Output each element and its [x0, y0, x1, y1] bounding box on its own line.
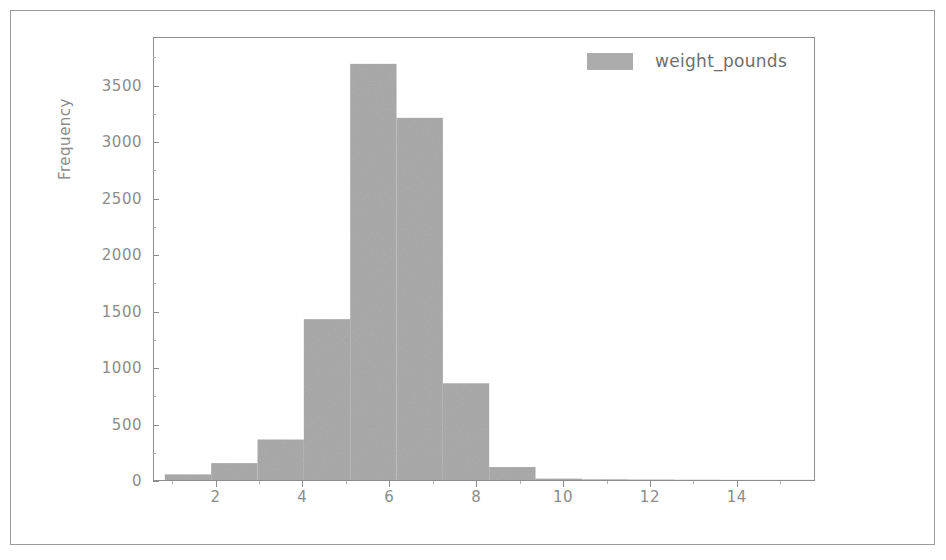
x-axis-tick-mark: [476, 481, 477, 487]
x-axis-tick-label: 10: [553, 488, 573, 506]
y-axis-tick-mark: [153, 312, 159, 313]
x-axis-minor-tick: [172, 481, 173, 484]
x-axis-tick-label: 4: [297, 488, 307, 506]
histogram-bar: [165, 474, 211, 480]
histogram-bar: [489, 467, 535, 480]
histogram-bar: [304, 319, 350, 480]
y-axis-tick-label: 3000: [102, 133, 142, 151]
x-axis-tick-mark: [737, 481, 738, 487]
histogram-bar: [397, 118, 443, 480]
x-axis-minor-tick: [520, 481, 521, 484]
y-axis-tick-mark: [153, 255, 159, 256]
y-axis-minor-tick: [153, 57, 156, 58]
y-axis-tick-label: 1000: [102, 359, 142, 377]
histogram-bar: [582, 479, 628, 480]
x-axis-tick-mark: [216, 481, 217, 487]
y-axis-title: Frequency: [56, 98, 74, 180]
x-axis-minor-tick: [433, 481, 434, 484]
y-axis-minor-tick: [153, 114, 156, 115]
histogram-bar: [211, 463, 257, 480]
x-axis-minor-tick: [780, 481, 781, 484]
y-axis-tick-mark: [153, 481, 159, 482]
y-axis-tick-label: 3500: [102, 77, 142, 95]
y-axis-tick-label: 2000: [102, 246, 142, 264]
plot-area: [153, 37, 815, 481]
x-axis-minor-tick: [346, 481, 347, 484]
y-axis-tick-mark: [153, 368, 159, 369]
legend-swatch-weight-pounds: [587, 53, 633, 70]
y-axis-minor-tick: [153, 283, 156, 284]
x-axis-tick-label: 8: [471, 488, 481, 506]
x-axis-tick-mark: [389, 481, 390, 487]
x-axis-minor-tick: [693, 481, 694, 484]
y-axis-tick-mark: [153, 86, 159, 87]
histogram-bar: [350, 64, 396, 480]
chart-legend: weight_pounds: [579, 47, 795, 75]
y-axis-tick-label: 2500: [102, 190, 142, 208]
x-axis-tick-mark: [650, 481, 651, 487]
x-axis-tick-mark: [563, 481, 564, 487]
x-axis-tick-label: 14: [727, 488, 747, 506]
y-axis-tick-label: 1500: [102, 303, 142, 321]
x-axis-tick-label: 2: [211, 488, 221, 506]
y-axis-tick-label: 0: [132, 472, 142, 490]
histogram-bar: [536, 479, 582, 480]
figure-canvas: Frequency 0500100015002000250030003500 2…: [0, 0, 946, 560]
x-axis-tick-label: 6: [384, 488, 394, 506]
x-axis-tick-label: 12: [640, 488, 660, 506]
y-axis-tick-labels: 0500100015002000250030003500: [78, 37, 142, 481]
histogram-bar: [258, 440, 304, 480]
histogram-bars: [154, 38, 814, 480]
y-axis-tick-label: 500: [112, 416, 142, 434]
x-axis-minor-tick: [259, 481, 260, 484]
y-axis-minor-tick: [153, 396, 156, 397]
y-axis-tick-mark: [153, 425, 159, 426]
y-axis-tick-mark: [153, 142, 159, 143]
x-axis-tick-mark: [302, 481, 303, 487]
x-axis-minor-tick: [607, 481, 608, 484]
y-axis-minor-tick: [153, 453, 156, 454]
y-axis-minor-tick: [153, 170, 156, 171]
y-axis-tick-mark: [153, 199, 159, 200]
x-axis-tick-labels: 2468101214: [153, 488, 815, 516]
y-axis-minor-tick: [153, 340, 156, 341]
legend-label-weight-pounds: weight_pounds: [655, 51, 787, 71]
histogram-bar: [443, 383, 489, 480]
y-axis-minor-tick: [153, 227, 156, 228]
